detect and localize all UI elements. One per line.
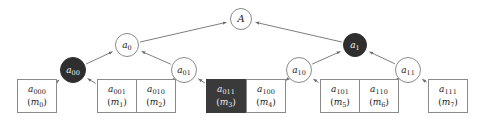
tree-node-a_00[interactable]: a00	[60, 57, 86, 83]
tree-edge-a_10-to-a_1	[312, 52, 340, 65]
tree-leaf-a_011-message-label: (m3)	[216, 98, 236, 107]
tree-node-a_00-label: a00	[66, 66, 80, 75]
tree-leaf-a_110[interactable]: a110(m6)	[359, 79, 399, 113]
tree-leaf-a_101[interactable]: a101(m5)	[320, 79, 360, 113]
tree-edge-a_00-to-a_0	[86, 52, 112, 64]
tree-leaf-a_010[interactable]: a010(m2)	[136, 79, 176, 113]
tree-node-a_11-label: a11	[401, 66, 415, 75]
tree-leaf-a_011[interactable]: a011(m3)	[206, 79, 246, 113]
tree-node-a_01-label: a01	[177, 66, 191, 75]
tree-leaf-a_110-label: a110	[370, 85, 388, 94]
tree-node-A[interactable]: A	[230, 8, 252, 30]
tree-leaf-a_001-message-label: (m1)	[107, 98, 127, 107]
tree-node-a_1[interactable]: a1	[343, 33, 367, 57]
tree-edge-a_01-to-a_0	[142, 51, 171, 64]
tree-node-a_10-label: a10	[292, 66, 306, 75]
tree-node-a_0[interactable]: a0	[115, 33, 139, 57]
tree-leaf-a_001-label: a001	[108, 85, 126, 94]
tree-diagram-figure: Aa0a1a00a01a10a11a000(m0)a001(m1)a010(m2…	[0, 0, 480, 118]
tree-edge-a_101-to-a_10	[313, 79, 318, 82]
tree-leaf-a_110-message-label: (m6)	[369, 98, 389, 107]
edge-group	[58, 22, 427, 83]
tree-edge-a_11-to-a_1	[369, 52, 394, 64]
tree-node-a_1-label: a1	[350, 41, 360, 50]
tree-leaf-a_100[interactable]: a100(m4)	[246, 79, 286, 113]
tree-node-a_0-label: a0	[122, 41, 132, 50]
tree-leaf-a_000-message-label: (m0)	[27, 98, 47, 107]
tree-leaf-a_000-label: a000	[28, 85, 46, 94]
tree-leaf-a_000[interactable]: a000(m0)	[17, 79, 57, 113]
tree-edge-a_011-to-a_01	[198, 79, 204, 83]
tree-leaf-a_100-label: a100	[257, 85, 275, 94]
tree-edge-a_1-to-A	[256, 22, 342, 42]
tree-leaf-a_101-label: a101	[331, 85, 349, 94]
tree-edge-a_001-to-a_00	[88, 79, 96, 84]
tree-edge-a_000-to-a_00	[58, 80, 59, 81]
tree-leaf-a_101-message-label: (m5)	[330, 98, 350, 107]
tree-leaf-a_100-message-label: (m4)	[256, 98, 276, 107]
tree-leaf-a_001[interactable]: a001(m1)	[97, 79, 137, 113]
tree-leaf-a_111-message-label: (m7)	[438, 98, 458, 107]
tree-node-A-label: A	[237, 14, 244, 24]
tree-node-a_10[interactable]: a10	[286, 57, 312, 83]
tree-edge-a_0-to-A	[140, 22, 226, 42]
tree-leaf-a_111-label: a111	[439, 85, 457, 94]
tree-leaf-a_010-label: a010	[147, 85, 165, 94]
tree-leaf-a_011-label: a011	[217, 85, 235, 94]
tree-leaf-a_010-message-label: (m2)	[146, 98, 166, 107]
tree-leaf-a_111[interactable]: a111(m7)	[428, 79, 468, 113]
tree-edge-a_111-to-a_11	[422, 79, 426, 82]
